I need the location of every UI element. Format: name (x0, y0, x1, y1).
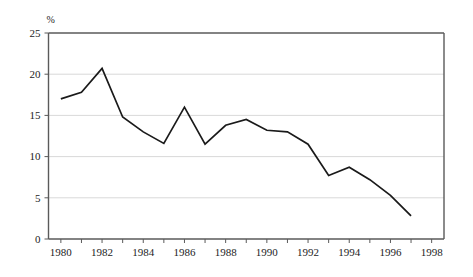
y-axis-unit-label: % (47, 14, 55, 25)
x-axis-labels-group: 1980198219841986198819901992199419961998 (50, 246, 443, 258)
y-tick-label: 10 (30, 150, 42, 162)
x-tick-label: 1984 (132, 246, 155, 258)
x-tick-label: 1996 (379, 246, 402, 258)
y-tick-label: 5 (35, 192, 41, 204)
x-tick-label: 1998 (421, 246, 444, 258)
x-tick-label: 1986 (173, 246, 196, 258)
y-tick-label: 25 (30, 27, 42, 39)
data-line-series-1 (61, 68, 411, 216)
chart-container: 0510152025 19801982198419861988199019921… (0, 0, 473, 277)
y-tick-label: 15 (30, 109, 42, 121)
y-axis-labels-group: 0510152025 (30, 27, 42, 245)
x-tick-label: 1982 (91, 246, 113, 258)
y-tick-label: 0 (35, 233, 41, 245)
x-tick-label: 1990 (256, 246, 279, 258)
y-tick-label: 20 (30, 68, 42, 80)
gridlines-group (49, 74, 445, 198)
x-tick-label: 1992 (297, 246, 319, 258)
x-tick-label: 1988 (215, 246, 238, 258)
line-chart: 0510152025 19801982198419861988199019921… (0, 0, 473, 277)
x-tick-label: 1980 (50, 246, 73, 258)
x-tick-label: 1994 (338, 246, 361, 258)
